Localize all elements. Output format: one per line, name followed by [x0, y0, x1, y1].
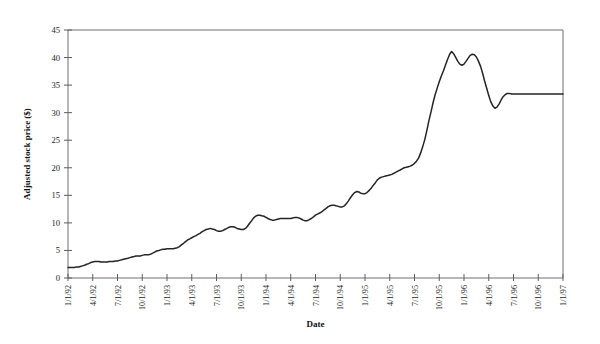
x-tick-label: 1/1/92	[64, 285, 73, 306]
y-tick-label: 25	[51, 135, 60, 145]
x-tick-label: 7/1/95	[411, 285, 420, 306]
x-axis-ticks	[68, 274, 563, 281]
x-tick-label: 10/1/96	[534, 285, 543, 310]
x-tick-label: 7/1/94	[312, 285, 321, 306]
stock-price-line	[68, 51, 563, 267]
x-tick-label: 10/1/94	[336, 285, 345, 310]
stock-price-chart-figure: 051015202530354045 1/1/924/1/927/1/9210/…	[0, 0, 600, 344]
x-axis-title: Date	[307, 319, 325, 329]
x-tick-label: 4/1/92	[89, 285, 98, 306]
x-tick-label: 10/1/92	[138, 285, 147, 310]
y-tick-label: 30	[51, 108, 60, 118]
x-tick-label: 1/1/97	[559, 285, 568, 306]
x-tick-label: 7/1/92	[114, 285, 123, 306]
x-tick-label: 7/1/96	[510, 285, 519, 306]
x-tick-label: 4/1/96	[485, 285, 494, 306]
x-tick-label: 4/1/93	[188, 285, 197, 306]
x-tick-label: 4/1/95	[386, 285, 395, 306]
y-tick-label: 45	[51, 25, 60, 35]
x-tick-label: 4/1/94	[287, 285, 296, 306]
y-tick-label: 40	[51, 53, 60, 63]
y-axis-tick-labels: 051015202530354045	[51, 25, 60, 283]
chart-canvas: 051015202530354045 1/1/924/1/927/1/9210/…	[0, 0, 600, 344]
y-tick-label: 0	[56, 273, 60, 283]
y-axis-title: Adjusted stock price ($)	[22, 108, 32, 200]
y-tick-label: 20	[51, 163, 60, 173]
x-tick-label: 10/1/93	[237, 285, 246, 310]
x-tick-label: 1/1/95	[361, 285, 370, 306]
y-tick-label: 10	[51, 218, 60, 228]
x-axis-tick-labels: 1/1/924/1/927/1/9210/1/921/1/934/1/937/1…	[64, 285, 568, 310]
x-tick-label: 1/1/94	[262, 285, 271, 306]
x-tick-label: 7/1/93	[213, 285, 222, 306]
x-tick-label: 1/1/93	[163, 285, 172, 306]
plot-frame	[68, 30, 563, 278]
y-tick-label: 5	[56, 245, 60, 255]
y-tick-label: 35	[51, 80, 60, 90]
x-tick-label: 10/1/95	[435, 285, 444, 310]
x-tick-label: 1/1/96	[460, 285, 469, 306]
y-tick-label: 15	[51, 190, 60, 200]
